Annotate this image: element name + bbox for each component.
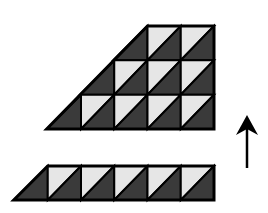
lower-strip-figure	[14, 166, 214, 200]
upper-staircase-figure	[47, 26, 214, 129]
up-arrow-icon	[236, 115, 258, 168]
diagram-canvas	[0, 0, 268, 213]
